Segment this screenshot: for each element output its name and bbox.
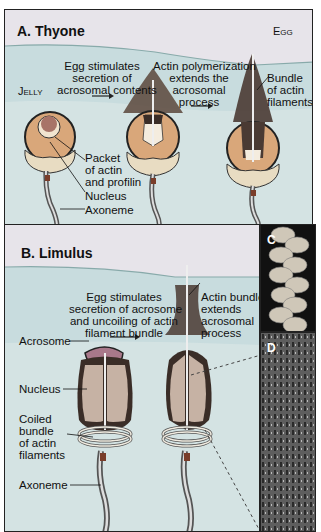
packet-label: Packet of actin and profilin	[85, 152, 141, 188]
nucleus-label-b: Nucleus	[19, 383, 61, 395]
axoneme-label-b: Axoneme	[19, 479, 68, 491]
coiled-bundle-label: Coiled bundle of actin filaments	[19, 413, 65, 461]
panel-b-limulus: B. Limulus Egg stimulates secretion of a…	[4, 224, 260, 532]
acrosome-label: Acrosome	[19, 335, 71, 347]
panel-a-title: A. Thyone	[17, 23, 85, 39]
thyone-step1-text: Egg stimulates secretion of acrosomal co…	[57, 60, 147, 96]
panel-c-label: C	[267, 233, 276, 247]
bundle-actin-label: Bundle of actin filaments	[267, 72, 313, 108]
panel-a-thyone: A. Thyone Egg Jelly Egg stimulates secre…	[4, 9, 313, 225]
limulus-step2-text: Actin bundle extends acrosomal process	[201, 291, 260, 339]
limulus-step1-text: Egg stimulates secretion of acrosome and…	[69, 291, 179, 339]
nucleus-label-a: Nucleus	[85, 190, 127, 202]
egg-label: Egg	[273, 25, 293, 37]
panel-b-title: B. Limulus	[21, 245, 93, 261]
panel-d-label: D	[267, 341, 276, 355]
panel-c-micrograph: C	[260, 224, 316, 332]
axoneme-label-a: Axoneme	[85, 204, 134, 216]
panel-a-illustration	[5, 10, 313, 225]
jelly-label: Jelly	[18, 85, 42, 97]
thyone-step2-text: Actin polymerization extends the acrosom…	[153, 60, 245, 108]
panel-d-micrograph: D	[260, 332, 316, 532]
